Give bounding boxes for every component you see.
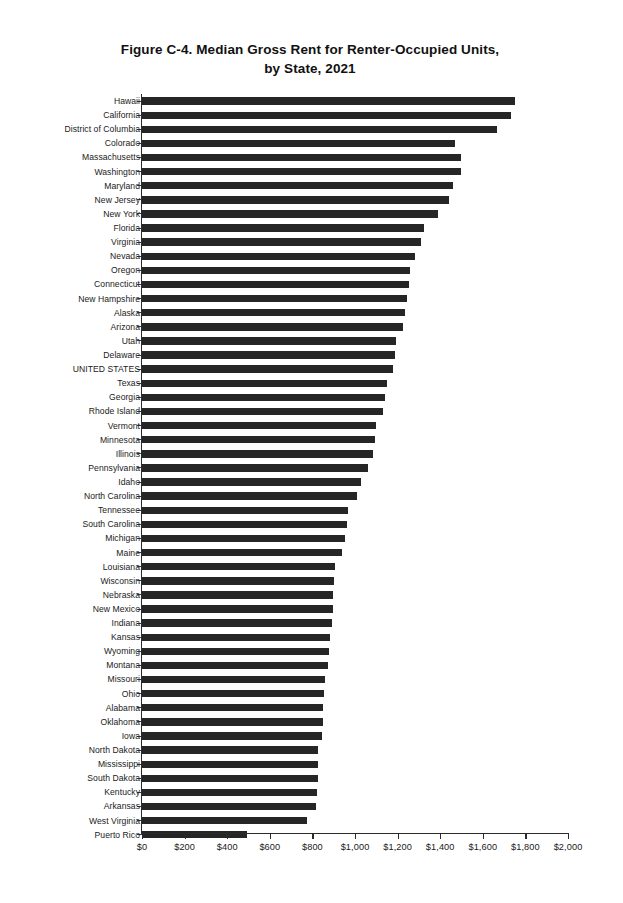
bar-row: Alabama [0,701,623,715]
bar-row: Nevada [0,249,623,263]
bar-category-label: Maine [10,546,140,560]
bar-category-label: New York [10,207,140,221]
bar-row: Nebraska [0,588,623,602]
x-axis-tick-label: $2,000 [538,841,598,853]
bar-category-label: Washington [10,165,140,179]
bar-category-label: Michigan [10,531,140,545]
bar [142,732,322,739]
x-axis-tick [270,834,271,839]
bar [142,690,324,697]
bar [142,351,395,358]
bar-category-label: Oregon [10,263,140,277]
bar [142,365,393,372]
x-axis-tick [398,834,399,839]
bar-row: Iowa [0,729,623,743]
bar [142,619,332,626]
bar-category-label: Nevada [10,249,140,263]
bar [142,408,383,415]
bar-row: Maryland [0,179,623,193]
bar-category-label: Montana [10,658,140,672]
bar-category-label: New Mexico [10,602,140,616]
bar [142,224,424,231]
bar-category-label: Indiana [10,616,140,630]
bar-row: Arkansas [0,799,623,813]
bar-rows: HawaiiCaliforniaDistrict of ColumbiaColo… [0,94,623,842]
bar [142,761,318,768]
x-axis-tick [483,834,484,839]
bar-row: Pennsylvania [0,461,623,475]
figure-c4-chart: Figure C-4. Median Gross Rent for Renter… [0,0,623,903]
bar [142,394,385,401]
plot-area: HawaiiCaliforniaDistrict of ColumbiaColo… [0,0,623,903]
x-axis-tick [185,834,186,839]
bar [142,507,348,514]
bar-category-label: North Carolina [10,489,140,503]
bar-row: Delaware [0,348,623,362]
bar-row: District of Columbia [0,122,623,136]
bar [142,549,342,556]
bar-category-label: Georgia [10,390,140,404]
bar-row: Rhode Island [0,404,623,418]
bar [142,323,403,330]
bar [142,605,333,612]
bar [142,648,329,655]
bar-row: Connecticut [0,277,623,291]
bar [142,478,361,485]
bar-row: Colorado [0,136,623,150]
bar-category-label: Ohio [10,687,140,701]
bar-category-label: Connecticut [10,277,140,291]
bar [142,718,323,725]
bar-row: North Carolina [0,489,623,503]
bar-category-label: Texas [10,376,140,390]
bar-row: Illinois [0,447,623,461]
bar [142,309,405,316]
bar [142,112,511,119]
bar-category-label: Kansas [10,630,140,644]
bar-row: South Carolina [0,517,623,531]
x-axis-tick [568,834,569,839]
bar-row: Wyoming [0,644,623,658]
bar-category-label: California [10,108,140,122]
bar [142,775,318,782]
x-axis-tick [525,834,526,839]
bar-row: Alaska [0,306,623,320]
bar-row: Massachusetts [0,150,623,164]
bar [142,168,461,175]
bar-category-label: West Virginia [10,814,140,828]
x-axis-tick [142,834,143,839]
bar [142,267,410,274]
bar-category-label: Wyoming [10,644,140,658]
bar [142,253,415,260]
bar [142,380,387,387]
bar-category-label: South Dakota [10,771,140,785]
bar-row: New York [0,207,623,221]
x-axis-tick [227,834,228,839]
bar-category-label: UNITED STATES [10,362,140,376]
bar-row: Louisiana [0,560,623,574]
bar [142,450,373,457]
bar [142,238,421,245]
bar [142,521,347,528]
bar-row: New Mexico [0,602,623,616]
bar-category-label: Wisconsin [10,574,140,588]
bar-category-label: Nebraska [10,588,140,602]
bar-row: Montana [0,658,623,672]
bar [142,634,330,641]
bar [142,154,461,161]
bar [142,337,396,344]
bar [142,281,409,288]
bar [142,817,307,824]
bar-category-label: Vermont [10,419,140,433]
bar-row: New Jersey [0,193,623,207]
bar-row: Washington [0,165,623,179]
bar [142,662,328,669]
bar [142,746,318,753]
bar-category-label: Minnesota [10,433,140,447]
bar [142,422,376,429]
x-axis-tick [440,834,441,839]
bar-row: Wisconsin [0,574,623,588]
bar-category-label: Iowa [10,729,140,743]
bar-row: Idaho [0,475,623,489]
bar-category-label: Illinois [10,447,140,461]
bar-category-label: Delaware [10,348,140,362]
